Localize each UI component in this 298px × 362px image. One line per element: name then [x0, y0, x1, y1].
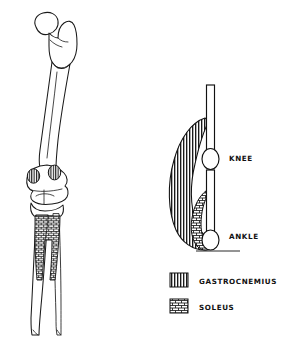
legend-swatch-gastrocnemius	[170, 273, 188, 287]
gastrocnemius-medial-head-origin	[27, 169, 39, 183]
knee-label: KNEE	[229, 154, 253, 163]
schematic-tibia-segment	[207, 170, 215, 232]
legend-label-gastrocnemius: GASTROCNEMIUS	[199, 277, 277, 286]
schematic-ankle-joint	[202, 230, 219, 250]
figure-canvas: KNEE ANKLE GASTROCNEMIUS SOLEUS	[0, 0, 298, 362]
ankle-label: ANKLE	[229, 232, 259, 241]
gastrocnemius-lateral-head-origin	[48, 165, 60, 180]
legend-label-soleus: SOLEUS	[199, 303, 234, 312]
anatomy-figure: KNEE ANKLE GASTROCNEMIUS SOLEUS	[0, 0, 298, 362]
legend-swatch-soleus	[170, 299, 188, 313]
schematic-femur-segment	[207, 85, 215, 151]
femoral-head	[35, 12, 58, 34]
schematic-knee-joint	[202, 149, 219, 170]
